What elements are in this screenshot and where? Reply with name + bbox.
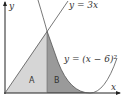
y-axis-arrow-icon bbox=[3, 1, 7, 6]
parabola-label: y = (x − 6)² bbox=[63, 54, 117, 64]
x-axis-label: x bbox=[111, 82, 116, 92]
region-a-label: A bbox=[29, 76, 35, 85]
graph: y x y = 3x y = (x − 6)² A B bbox=[0, 0, 122, 96]
x-axis-arrow-icon bbox=[116, 91, 121, 95]
y-axis-label: y bbox=[8, 1, 15, 11]
region-b-label: B bbox=[54, 76, 60, 85]
line-label: y = 3x bbox=[68, 0, 98, 10]
